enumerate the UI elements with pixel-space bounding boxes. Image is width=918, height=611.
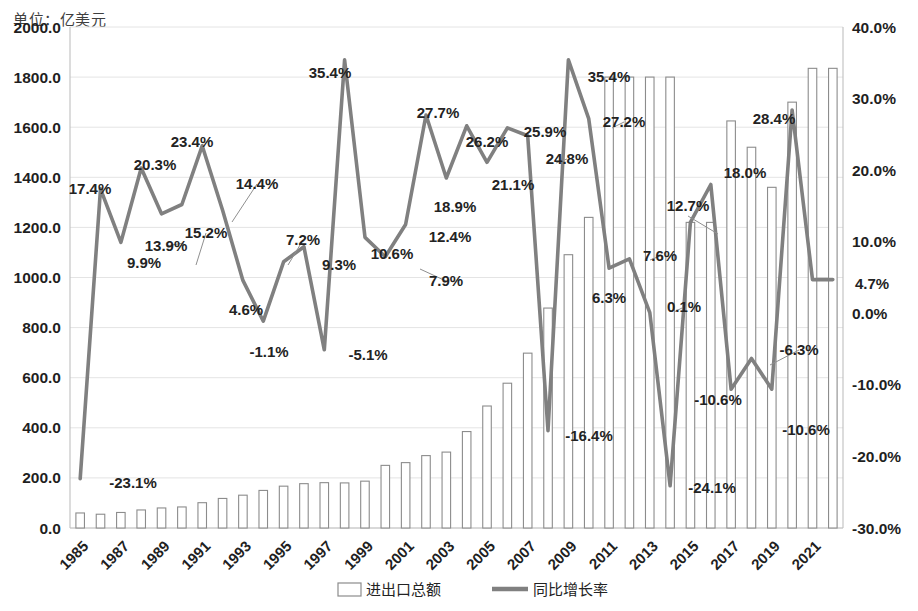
data-label: 4.6% [229,301,263,318]
x-axis-tick: 2015 [666,537,702,573]
data-label: 28.4% [753,110,796,127]
bar [584,217,593,528]
data-label: 18.9% [434,198,477,215]
x-tick-group: 2007 [503,537,539,573]
data-label: 35.4% [588,68,631,85]
bar [727,121,736,528]
bar [239,495,248,528]
x-axis-tick: 1999 [341,537,377,573]
right-axis-tick: 0.0% [852,305,888,322]
data-label: -10.6% [694,391,742,408]
x-axis-tick: 1989 [137,537,173,573]
x-axis-tick: 2011 [585,537,620,572]
x-axis-tick: 2003 [422,537,458,573]
x-axis-tick: 2001 [381,537,417,573]
left-axis-tick: 600.0 [22,369,61,386]
data-label: 13.9% [145,237,188,254]
x-tick-group: 2015 [666,537,702,573]
bar [96,514,105,528]
data-label: 6.3% [592,289,626,306]
data-label: -24.1% [688,479,736,496]
bar [279,486,288,528]
bar [340,483,349,528]
data-label: 4.7% [855,275,889,292]
bar [401,463,410,528]
legend-line-label: 同比增长率 [533,581,608,598]
x-tick-group: 2001 [381,537,417,573]
x-axis-tick: 2019 [747,537,783,573]
data-label: 9.9% [127,254,161,271]
bar [218,498,227,528]
chart-container: 单位：亿美元 0.0200.0400.0600.0800.01000.01200… [0,0,918,611]
x-tick-group: 2009 [544,537,580,573]
x-tick-group: 1999 [341,537,377,573]
x-axis-tick: 1985 [56,537,92,573]
x-axis-ticks: 1985198719891991199319951997199920012003… [56,537,824,573]
left-axis-tick: 1600.0 [14,119,61,136]
bar [625,77,634,528]
data-label: 17.4% [69,180,112,197]
x-tick-group: 2005 [463,537,499,573]
x-tick-group: 2019 [747,537,783,573]
x-axis-tick: 2005 [463,537,499,573]
bar [320,483,329,528]
data-label: 12.4% [429,228,472,245]
x-axis-tick: 1995 [259,537,295,573]
x-tick-group: 1989 [137,537,173,573]
right-axis-tick: -30.0% [852,520,901,537]
data-label: 15.2% [185,224,228,241]
x-axis-tick: 1997 [300,537,336,573]
bar [422,456,431,528]
x-axis-tick: 2021 [788,537,824,573]
left-axis-tick: 800.0 [22,319,61,336]
data-label: -6.3% [779,341,818,358]
right-axis-tick: 20.0% [852,162,896,179]
bar [361,481,370,528]
data-label: 25.9% [524,123,567,140]
left-axis-tick: 1800.0 [14,69,61,86]
data-label: 10.6% [371,245,414,262]
data-label: 23.4% [171,133,214,150]
leader-lines [166,122,799,365]
right-axis-tick: -10.0% [852,376,901,393]
data-label: 7.9% [429,272,463,289]
left-axis-tick: 1400.0 [14,169,61,186]
x-axis-tick: 1993 [219,537,255,573]
x-tick-group: 2017 [707,537,743,573]
bar [157,508,166,528]
bar [442,452,451,528]
left-axis-tick: 0.0 [39,520,61,537]
data-label: -10.6% [782,421,830,438]
left-axis-tick: 1200.0 [14,219,61,236]
data-label: 20.3% [134,156,177,173]
bar [503,383,512,528]
bar [747,147,756,528]
left-axis-tick: 200.0 [22,469,61,486]
bar [829,68,838,528]
data-label: 26.2% [466,133,509,150]
x-tick-group: 2013 [625,537,661,573]
left-axis-tick: 1000.0 [14,269,61,286]
data-label: -5.1% [348,346,387,363]
x-axis-tick: 2017 [707,537,743,573]
x-tick-group: 1995 [259,537,295,573]
bar [259,490,268,528]
data-label: 12.7% [667,197,710,214]
bar [808,68,817,528]
bar [178,507,187,528]
data-label: 27.7% [417,104,460,121]
x-tick-group: 1997 [300,537,336,573]
x-tick-group: 1985 [56,537,92,573]
right-axis-tick: 40.0% [852,19,896,36]
bar [564,255,573,528]
left-axis-tick: 2000.0 [14,19,61,36]
legend-bar-swatch [338,583,361,596]
left-axis-ticks: 0.0200.0400.0600.0800.01000.01200.01400.… [14,19,61,537]
data-label: 9.3% [322,256,356,273]
data-label: 7.6% [643,247,677,264]
right-axis-tick: 30.0% [852,90,896,107]
x-axis-tick: 1991 [178,537,214,573]
x-axis-tick: 1987 [97,537,133,573]
bar [117,512,126,528]
data-label: 18.0% [724,164,767,181]
